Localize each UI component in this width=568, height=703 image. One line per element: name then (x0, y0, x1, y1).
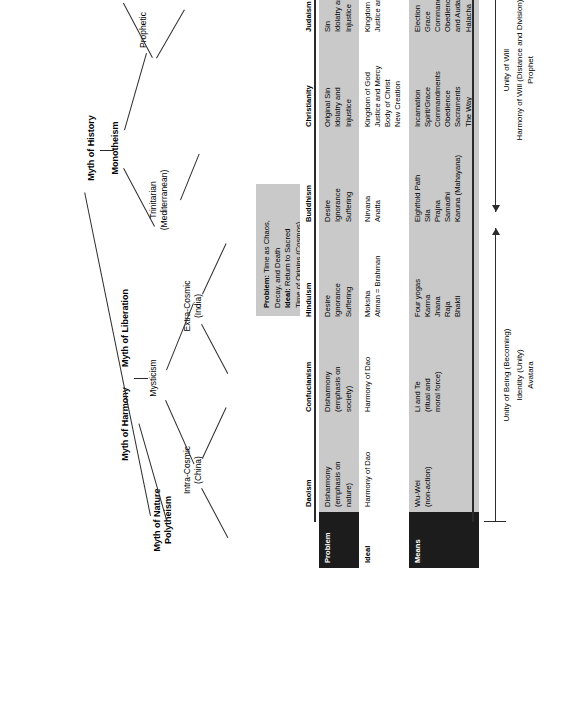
table-bottom-rule (472, 0, 474, 522)
cell-buddhism-means: Eightfold Path Sila Prajna Samadhi Karun… (409, 132, 479, 227)
tree-node-monotheism: Monotheism (110, 100, 121, 196)
will-axis-line (495, 0, 496, 212)
edge-monotheism-to-prophetic (124, 53, 147, 130)
legend-text-0: Time as Chaos, (262, 220, 271, 275)
cell-christianity-problem: Original Sin Idolatry and Injustice (319, 37, 359, 132)
cell-judaism-means: Election Grace Commandments Obedience an… (409, 0, 479, 37)
row-label-means: Means (409, 512, 479, 568)
row-label-ideal: Ideal (359, 512, 409, 568)
edge-intra-cosmic-to-confucianism (202, 407, 227, 458)
cell-text: Harmony of Dao (363, 327, 373, 412)
cell-daoism-ideal: Harmony of Dao (359, 417, 409, 512)
cell-text: and Audacity (453, 0, 463, 32)
cell-text: Sacraments (453, 42, 463, 127)
edge-liberation-to-mysticism (134, 378, 148, 379)
will-axis-label: Unity of Will (502, 0, 513, 212)
column-header-judaism: Judaism (300, 0, 319, 37)
column-header-christianity: Christianity (300, 37, 319, 132)
column-header-hinduism: Hinduism (300, 227, 319, 322)
will-arrow-left-icon (492, 205, 500, 212)
intra-cosmic-line-1: Intra-Cosmic (182, 422, 193, 518)
cell-text: Kingdom of God (363, 42, 373, 127)
cell-text: Election (413, 0, 423, 32)
edge-root-to-history (84, 192, 151, 516)
cell-text: (emphasis on (333, 327, 343, 412)
cell-text: Moksha (363, 232, 373, 317)
cell-text: Harmony of Dao (363, 422, 373, 507)
cell-text: Incarnation (413, 42, 423, 127)
legend-line-2: Ideal: Return to Sacred (283, 192, 294, 308)
cell-text: Commandments (433, 0, 443, 32)
root-line-2: Polytheism (163, 472, 174, 568)
cell-text: Suffering (344, 232, 354, 317)
cell-text: Prajna (433, 137, 443, 222)
row-label-problem: Problem (319, 512, 359, 568)
cell-text: Desire (323, 137, 333, 222)
figure-stage: Myth of Nature Polytheism Myth of Harmon… (0, 0, 568, 568)
cell-text: nature) (344, 422, 354, 507)
trinitarian-line-1: Trinitarian (148, 150, 159, 250)
legend-label-problem: Problem: (262, 275, 271, 308)
cell-text: Justice and Mercy (373, 42, 383, 127)
cell-text: Spirit/Grace (423, 42, 433, 127)
intra-cosmic-line-2: (China) (193, 422, 204, 518)
cell-text: Bhakti (453, 232, 463, 317)
edge-extra-cosmic-to-hinduism (201, 324, 228, 374)
tree-node-intra-cosmic: Intra-Cosmic (China) (182, 422, 203, 518)
cell-text: Idolatry and (333, 42, 343, 127)
being-axis-line (495, 228, 496, 522)
table-row-problem: Problem Disharmony (emphasis on nature) … (319, 0, 359, 568)
cell-text: Samadhi (443, 137, 453, 222)
annotation-unity-of-will: Unity of Will Harmony of Will (Distance … (484, 0, 544, 212)
edge-prophetic-to-judaism (156, 10, 185, 59)
column-header-buddhism: Buddhism (300, 132, 319, 227)
cell-text: Obedience (443, 42, 453, 127)
cell-text: (ritual and (423, 327, 433, 412)
cell-text: Kingdom of God (363, 0, 373, 32)
cell-text: moral force) (433, 327, 443, 412)
tree-node-root: Myth of Nature Polytheism (152, 472, 173, 568)
cell-text: Grace (423, 0, 433, 32)
cell-text: Commandments (433, 42, 443, 127)
cell-hinduism-means: Four yogas Karma Jnana Raja Bhakti (409, 227, 479, 322)
table-row-ideal: Ideal Harmony of Dao Harmony of Dao Moks… (359, 0, 409, 568)
table-row-means: Means Wu-Wei (non-action) Li and Te (rit… (409, 0, 479, 568)
cell-text: Karma (423, 232, 433, 317)
will-sub-label-2: Prophet (526, 0, 537, 212)
cell-text: Disharmony (323, 327, 333, 412)
being-axis-label: Unity of Being (Becoming) (502, 228, 513, 522)
column-header-daoism: Daoism (300, 417, 319, 512)
trinitarian-line-2: (Mediterranean) (159, 150, 170, 250)
cell-text: Injustice (344, 0, 354, 32)
cell-daoism-problem: Disharmony (emphasis on nature) (319, 417, 359, 512)
cell-text: Idolatry and (333, 0, 343, 32)
edge-extra-cosmic-to-buddhism (202, 243, 227, 294)
cell-judaism-ideal: Kingdom of God Justice and Mercy (359, 0, 409, 37)
cell-text: Justice and Mercy (373, 0, 383, 32)
cell-text: Obedience (443, 0, 453, 32)
cell-text: Ignorance (333, 232, 343, 317)
cell-daoism-means: Wu-Wei (non-action) (409, 417, 479, 512)
cell-text: Four yogas (413, 232, 423, 317)
cell-text: Sin (323, 0, 333, 32)
cell-text: Original Sin (323, 42, 333, 127)
cell-text: Li and Te (413, 327, 423, 412)
edge-history-to-monotheism (100, 150, 114, 151)
edge-trinitarian-to-christianity (180, 154, 200, 201)
cell-confucianism-means: Li and Te (ritual and moral force) (409, 322, 479, 417)
cell-text: Injustice (344, 42, 354, 127)
comparison-table: Daoism Confucianism Hinduism Buddhism Ch… (300, 0, 479, 568)
being-sub-label-1: Identity (Unity) (515, 228, 526, 522)
column-header-confucianism: Confucianism (300, 322, 319, 417)
being-arrow-right-icon (492, 228, 500, 235)
cell-buddhism-ideal: Nirvana Anatta (359, 132, 409, 227)
cell-text: society) (344, 327, 354, 412)
cell-text: Nirvana (363, 137, 373, 222)
tree-node-myth-of-history: Myth of History (86, 100, 97, 196)
edge-intra-cosmic-to-daoism (201, 488, 228, 538)
cell-judaism-problem: Sin Idolatry and Injustice (319, 0, 359, 37)
extra-cosmic-line-2: (India) (193, 258, 204, 354)
legend-line-0: Problem: Time as Chaos, (262, 192, 273, 308)
legend-text-2: Return to Sacred (283, 229, 292, 289)
cell-text: Eightfold Path (413, 137, 423, 222)
